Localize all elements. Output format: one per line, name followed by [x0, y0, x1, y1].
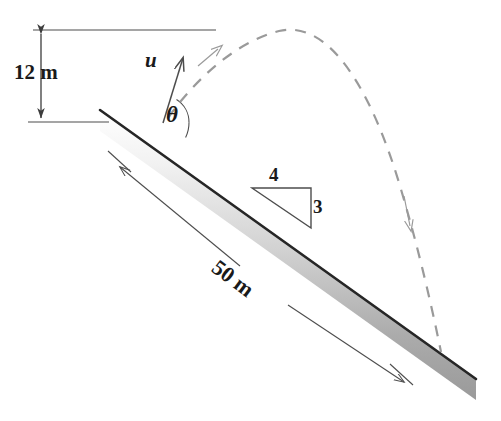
angle-arc-group: [177, 100, 190, 138]
length-dimension: [108, 151, 413, 385]
projectile-incline-diagram: 12 m u θ 4 3 50 m: [0, 0, 501, 421]
slope-run-label: 4: [269, 165, 279, 184]
slope-triangle: [252, 188, 311, 228]
height-label: 12 m: [14, 62, 58, 83]
incline-surface-edge: [100, 110, 476, 379]
diagram-canvas: [0, 0, 501, 421]
slope-triangle-outline: [252, 188, 311, 228]
theta-angle-arc: [177, 100, 190, 123]
slope-rise-label: 3: [313, 197, 323, 216]
length-tick-upper: [108, 151, 131, 172]
angle-label: θ: [166, 103, 178, 126]
theta-angle-arc-lower: [186, 123, 189, 138]
velocity-label: u: [145, 50, 157, 71]
trajectory-direction-arrow-descending: [404, 196, 410, 226]
trajectory-direction-arrow-ascending: [198, 49, 218, 66]
